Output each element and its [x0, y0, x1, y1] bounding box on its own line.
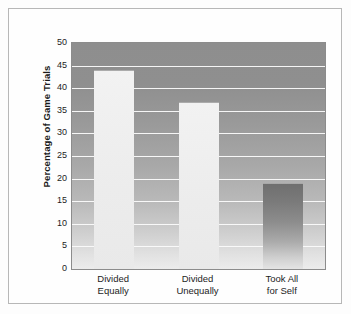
x-tick-label: Took Allfor Self [234, 273, 330, 296]
x-tick-label-line: Took All [234, 273, 330, 285]
gridline [72, 66, 325, 67]
x-tick-label: DividedUnequally [150, 273, 246, 296]
y-tick-label: 15 [45, 195, 67, 205]
y-tick-label: 40 [45, 82, 67, 92]
x-tick-label-line: Unequally [150, 285, 246, 297]
x-tick-label-line: for Self [234, 285, 330, 297]
y-tick-label: 45 [45, 60, 67, 70]
y-tick-label: 35 [45, 105, 67, 115]
x-axis-tick-labels: DividedEquallyDividedUnequallyTook Allfo… [71, 273, 326, 314]
y-tick-label: 20 [45, 173, 67, 183]
x-tick-label-line: Divided [65, 273, 161, 285]
x-tick-label-line: Divided [150, 273, 246, 285]
bar [263, 183, 303, 269]
y-tick-label: 5 [45, 240, 67, 250]
y-tick-label: 25 [45, 150, 67, 160]
plot-area [71, 42, 326, 270]
x-tick-label: DividedEqually [65, 273, 161, 296]
y-tick-label: 30 [45, 127, 67, 137]
bar [94, 70, 134, 269]
y-tick-label: 0 [45, 263, 67, 273]
y-tick-label: 10 [45, 218, 67, 228]
y-axis-tick-labels: 05101520253035404550 [41, 42, 67, 268]
y-tick-label: 50 [45, 37, 67, 47]
figure-border: Percentage of Game Trials 05101520253035… [8, 8, 342, 304]
bar [179, 102, 219, 269]
chart-figure: Percentage of Game Trials 05101520253035… [0, 0, 351, 314]
x-tick-label-line: Equally [65, 285, 161, 297]
